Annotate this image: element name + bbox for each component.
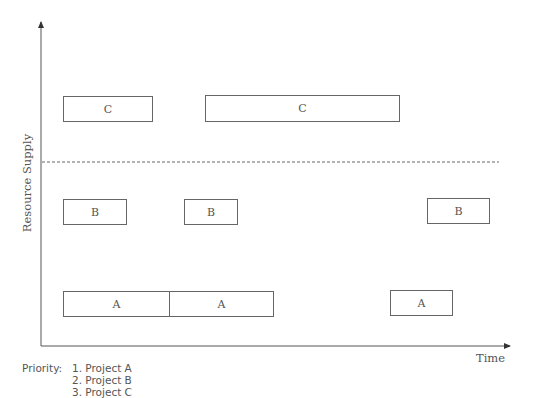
project-block-b: B (427, 198, 490, 224)
project-block-a: A (390, 290, 453, 316)
priority-item-a: 1. Project A (72, 362, 132, 374)
priority-list: 1. Project A 2. Project B 3. Project C (72, 362, 132, 398)
project-block-c: C (63, 96, 153, 122)
project-block-a: A (169, 291, 274, 317)
priority-item-c: 3. Project C (72, 386, 132, 398)
priority-item-b: 2. Project B (72, 374, 132, 386)
project-block-b: B (184, 199, 238, 225)
project-block-c: C (205, 95, 400, 122)
x-axis-label: Time (476, 351, 505, 365)
project-block-a: A (63, 291, 170, 317)
priority-title: Priority: (22, 362, 62, 374)
project-block-b: B (63, 199, 127, 225)
y-axis-label: Resource Supply (20, 134, 34, 232)
